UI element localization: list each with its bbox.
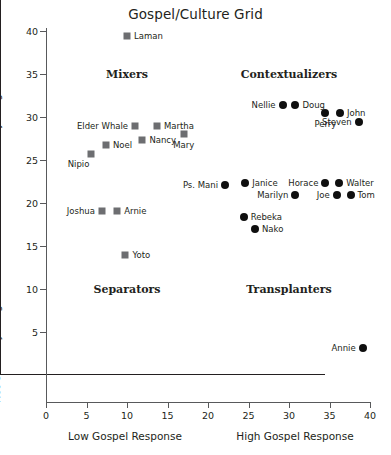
x-tick-label-15: 15 <box>161 410 173 421</box>
data-point-label: Noel <box>113 141 132 150</box>
marker-square-icon <box>114 207 121 214</box>
x-tick-10 <box>127 402 128 408</box>
marker-square-icon <box>98 207 105 214</box>
y-tick-label-20: 20 <box>18 198 38 209</box>
y-tick-40 <box>40 31 46 32</box>
marker-square-icon <box>180 131 187 138</box>
marker-circle-icon <box>251 225 259 233</box>
data-point-label: Nako <box>262 225 283 234</box>
quadrant-label-mixers: Mixers <box>106 68 148 81</box>
data-point-label: Yoto <box>132 250 150 259</box>
x-tick-label-10: 10 <box>121 410 133 421</box>
y-tick-20 <box>40 203 46 204</box>
data-point-label: Martha <box>164 122 194 131</box>
data-point-label: Joe <box>317 191 330 200</box>
x-tick-label-5: 5 <box>83 410 89 421</box>
marker-circle-icon <box>359 344 367 352</box>
data-point-label: Laman <box>134 32 163 41</box>
data-point-label: John <box>347 108 365 117</box>
marker-circle-icon <box>347 191 355 199</box>
x-axis-label-low: Low Gospel Response <box>68 430 182 442</box>
y-tick-25 <box>40 160 46 161</box>
data-point-label: Nellie <box>252 101 276 110</box>
y-tick-35 <box>40 74 46 75</box>
data-point-label: Ps. Mani <box>183 181 218 190</box>
marker-square-icon <box>153 123 160 130</box>
y-tick-label-5: 5 <box>18 327 38 338</box>
x-tick-label-20: 20 <box>202 410 214 421</box>
x-tick-label-35: 35 <box>323 410 335 421</box>
x-tick-5 <box>87 402 88 408</box>
y-tick-label-25: 25 <box>18 155 38 166</box>
marker-square-icon <box>102 142 109 149</box>
data-point-label: Nipio <box>68 160 90 169</box>
y-tick-label-35: 35 <box>18 69 38 80</box>
x-tick-25 <box>249 402 250 408</box>
marker-circle-icon <box>240 213 248 221</box>
x-tick-label-0: 0 <box>43 410 49 421</box>
data-point-label: Steven <box>322 118 352 127</box>
marker-circle-icon <box>335 179 343 187</box>
x-tick-35 <box>330 402 331 408</box>
data-point-label: Elder Whale <box>77 122 128 131</box>
x-axis-label-high: High Gospel Response <box>236 430 353 442</box>
data-point-label: Walter <box>346 179 374 188</box>
marker-circle-icon <box>333 191 341 199</box>
x-tick-15 <box>168 402 169 408</box>
y-tick-label-40: 40 <box>18 26 38 37</box>
marker-circle-icon <box>355 118 363 126</box>
marker-circle-icon <box>336 109 344 117</box>
x-tick-30 <box>289 402 290 408</box>
gospel-culture-grid-chart: Gospel/Culture Grid 510152025303540 0510… <box>0 0 391 455</box>
y-tick-30 <box>40 117 46 118</box>
marker-circle-icon <box>321 179 329 187</box>
marker-square-icon <box>122 251 129 258</box>
marker-square-icon <box>132 123 139 130</box>
y-tick-label-15: 15 <box>18 241 38 252</box>
data-point-label: Joshua <box>67 206 95 215</box>
x-tick-20 <box>208 402 209 408</box>
y-axis-line <box>46 28 47 403</box>
data-point-label: Doug <box>302 101 325 110</box>
chart-title: Gospel/Culture Grid <box>0 6 391 22</box>
marker-square-icon <box>139 137 146 144</box>
data-point-label: Annie <box>332 344 356 353</box>
x-tick-0 <box>46 402 47 408</box>
marker-circle-icon <box>291 101 299 109</box>
x-tick-label-25: 25 <box>242 410 254 421</box>
marker-circle-icon <box>241 179 249 187</box>
data-point-label: Arnie <box>124 206 146 215</box>
data-point-label: Rebeka <box>251 213 282 222</box>
data-point-label: Tom <box>358 191 375 200</box>
y-tick-15 <box>40 246 46 247</box>
data-point-label: Mary <box>173 141 194 150</box>
marker-circle-icon <box>279 101 287 109</box>
y-tick-label-10: 10 <box>18 284 38 295</box>
x-tick-40 <box>370 402 371 408</box>
horizontal-quadrant-divider <box>0 374 325 375</box>
marker-circle-icon <box>321 109 329 117</box>
marker-square-icon <box>124 33 131 40</box>
marker-circle-icon <box>221 181 229 189</box>
quadrant-label-separators: Separators <box>93 283 160 296</box>
y-tick-10 <box>40 289 46 290</box>
data-point-label: Nancy <box>149 136 176 145</box>
y-axis-label-low: Not Culturally Integrated <box>0 279 2 403</box>
y-tick-label-30: 30 <box>18 112 38 123</box>
quadrant-label-transplanters: Transplanters <box>246 283 332 296</box>
x-tick-label-30: 30 <box>283 410 295 421</box>
data-point-label: Marilyn <box>257 191 288 200</box>
data-point-label: Janice <box>252 179 277 188</box>
marker-circle-icon <box>291 191 299 199</box>
quadrant-label-contextualizers: Contextualizers <box>241 68 338 81</box>
x-tick-label-40: 40 <box>364 410 376 421</box>
marker-square-icon <box>88 150 95 157</box>
y-axis-label-high: Culturally Integrated <box>0 67 2 171</box>
data-point-label: Horace <box>288 179 318 188</box>
y-tick-5 <box>40 332 46 333</box>
